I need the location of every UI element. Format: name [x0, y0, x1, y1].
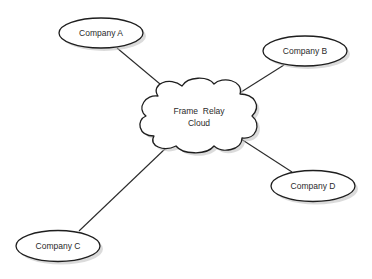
link-company-d-cloud	[241, 139, 292, 172]
node-company-b[interactable]: Company B	[263, 36, 350, 69]
link-company-b-cloud	[238, 65, 284, 94]
node-company-d[interactable]: Company D	[271, 171, 358, 205]
link-company-c-cloud	[79, 147, 167, 231]
link-company-a-cloud	[117, 48, 166, 89]
network-diagram: Frame Relay Cloud Company A Company B Co…	[0, 0, 372, 279]
company-d-label: Company D	[291, 181, 336, 191]
node-company-a[interactable]: Company A	[59, 18, 146, 51]
frame-relay-cloud[interactable]: Frame Relay Cloud	[140, 78, 260, 156]
company-c-label: Company C	[36, 241, 81, 251]
company-a-label: Company A	[79, 28, 123, 38]
cloud-label-line2: Cloud	[188, 118, 210, 128]
node-company-c[interactable]: Company C	[16, 231, 103, 265]
cloud-label-line1: Frame Relay	[173, 106, 225, 116]
company-b-label: Company B	[283, 46, 328, 56]
